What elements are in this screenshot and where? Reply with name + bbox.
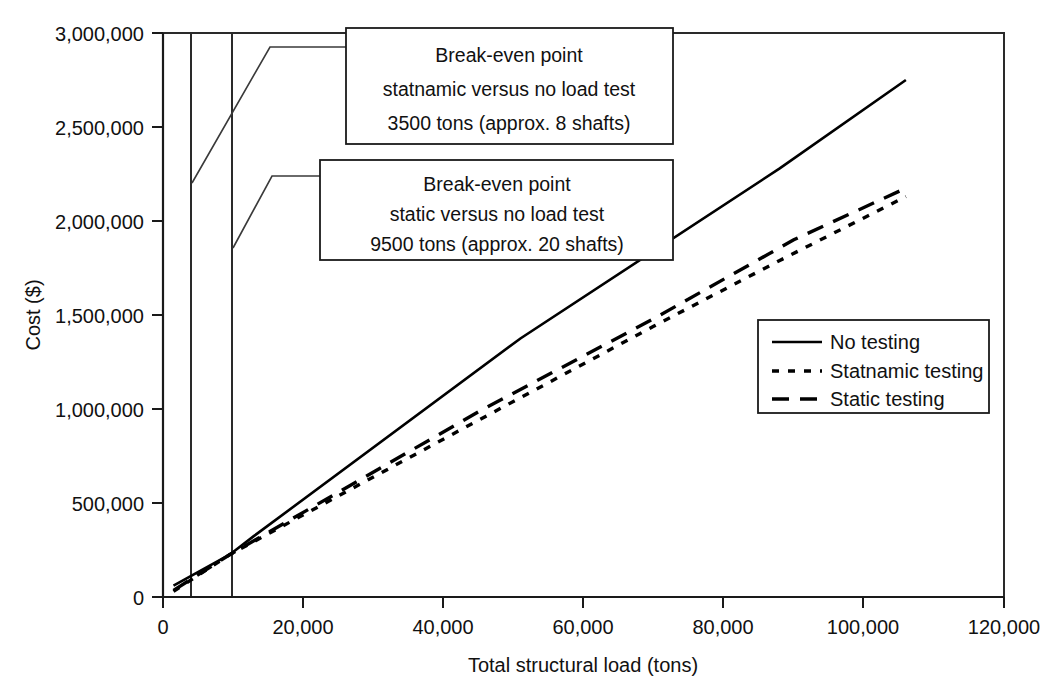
- legend-label-statnamic-testing: Statnamic testing: [830, 360, 983, 382]
- leader-line-static-breakeven: [233, 176, 320, 248]
- chart-canvas: 3,000,000 2,500,000 2,000,000 1,500,000 …: [0, 0, 1062, 687]
- cost-vs-load-chart: 3,000,000 2,500,000 2,000,000 1,500,000 …: [0, 0, 1062, 687]
- y-tick-label-0: 0: [133, 587, 144, 609]
- y-tick-label-1000000: 1,000,000: [55, 399, 144, 421]
- annotation-static-line2: static versus no load test: [390, 203, 605, 225]
- annotation-statnamic-line1: Break-even point: [435, 44, 583, 66]
- annotation-statnamic-line2: statnamic versus no load test: [383, 78, 636, 100]
- legend-label-static-testing: Static testing: [830, 388, 945, 410]
- x-tick-label-20000: 20,000: [272, 616, 333, 638]
- x-tick-label-80000: 80,000: [692, 616, 753, 638]
- annotation-static-line3: 9500 tons (approx. 20 shafts): [370, 233, 624, 255]
- y-tick-label-3000000: 3,000,000: [55, 23, 144, 45]
- annotation-static-line1: Break-even point: [423, 173, 571, 195]
- x-tick-label-60000: 60,000: [552, 616, 613, 638]
- y-axis-title: Cost ($): [22, 279, 44, 350]
- x-tick-label-100000: 100,000: [827, 616, 899, 638]
- annotation-statnamic-line3: 3500 tons (approx. 8 shafts): [388, 112, 631, 134]
- y-tick-label-1500000: 1,500,000: [55, 305, 144, 327]
- x-tick-label-120000: 120,000: [968, 616, 1040, 638]
- x-axis-title: Total structural load (tons): [468, 654, 698, 676]
- x-tick-label-40000: 40,000: [412, 616, 473, 638]
- y-tick-label-2500000: 2,500,000: [55, 117, 144, 139]
- x-tick-label-0: 0: [157, 616, 168, 638]
- legend-label-no-testing: No testing: [830, 331, 920, 353]
- y-tick-label-2000000: 2,000,000: [55, 211, 144, 233]
- y-tick-label-500000: 500,000: [72, 493, 144, 515]
